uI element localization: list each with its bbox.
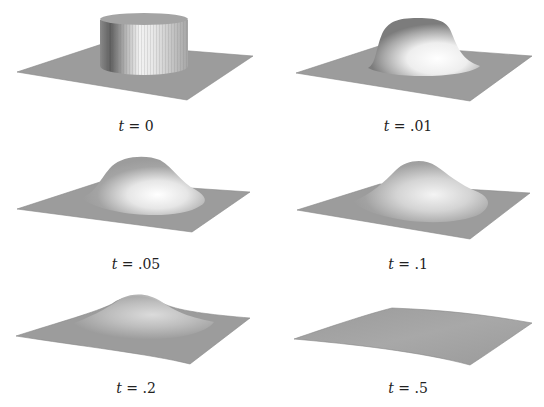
caption-t5: t = .5 [272, 380, 544, 396]
panel-t2: t = .2 [0, 280, 272, 407]
caption-t1: t = .1 [272, 256, 544, 272]
time-value: 0 [145, 118, 154, 134]
caption-t2: t = .2 [0, 380, 272, 396]
caption-t0: t = 0 [0, 118, 272, 134]
panel-t05: t = .05 [0, 140, 272, 280]
diffusion-figure: t = 0 t = .01 [0, 0, 544, 407]
panel-t0: t = 0 [0, 0, 272, 140]
caption-t01: t = .01 [272, 118, 544, 134]
panel-t01: t = .01 [272, 0, 544, 140]
panel-t1: t = .1 [272, 140, 544, 280]
caption-t05: t = .05 [0, 256, 272, 272]
panel-t5: t = .5 [272, 280, 544, 407]
